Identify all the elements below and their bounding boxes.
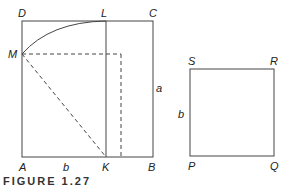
label-a: A: [18, 161, 26, 173]
square-abcd: [22, 21, 153, 157]
figure-canvas: D L C M a A b K B S R b P Q FIGURE 1.27: [0, 0, 288, 189]
label-q: Q: [270, 160, 279, 172]
label-s: S: [188, 55, 196, 67]
label-a-side: a: [156, 82, 162, 94]
label-c: C: [149, 7, 157, 19]
label-b-right: b: [178, 108, 184, 120]
label-r: R: [270, 55, 278, 67]
label-p: P: [188, 160, 196, 172]
arc-ml: [22, 21, 106, 54]
label-b-side: b: [63, 161, 69, 173]
label-b: B: [148, 161, 155, 173]
label-k: K: [102, 161, 110, 173]
label-m: M: [8, 48, 18, 60]
dashed-line-mk: [22, 54, 106, 157]
figure-caption: FIGURE 1.27: [3, 175, 91, 187]
label-d: D: [18, 7, 26, 19]
label-l: L: [101, 7, 107, 19]
square-pqrs: [190, 69, 274, 156]
